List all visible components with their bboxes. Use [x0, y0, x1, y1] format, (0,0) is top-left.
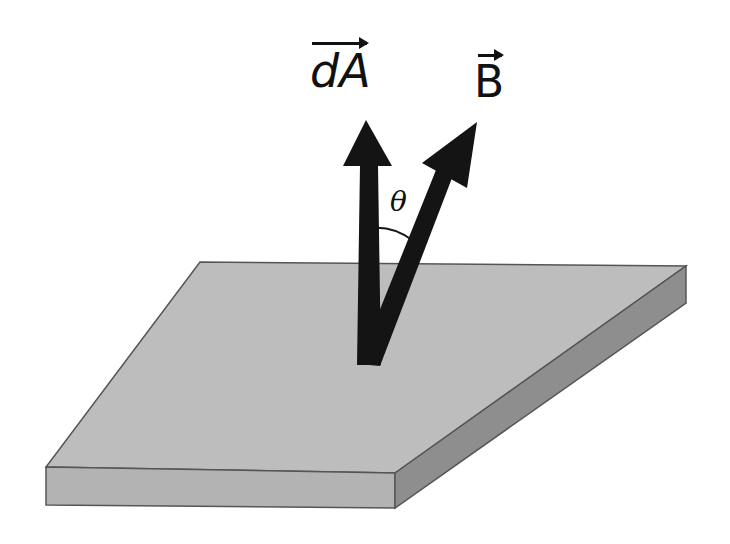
vector-arrow-icon [478, 54, 502, 57]
angle-label: θ [390, 188, 407, 216]
field-vector-label: B [474, 60, 504, 104]
vector-arrow-icon [312, 42, 367, 45]
area-vector-label: dA [310, 48, 371, 94]
plate-front-face [46, 467, 395, 508]
